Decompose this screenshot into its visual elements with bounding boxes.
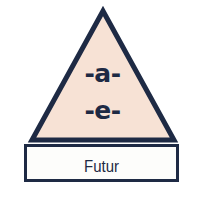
diagram-card: -a- -e- Futur [0, 0, 199, 198]
tense-box-label: Futur [33, 158, 169, 175]
vowel-a-label: -a- [3, 61, 199, 86]
vowel-e-label: -e- [3, 98, 199, 123]
